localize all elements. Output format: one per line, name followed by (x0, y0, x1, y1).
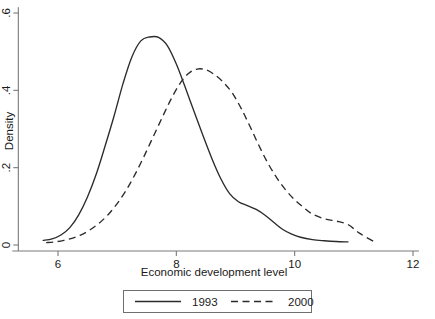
chart-legend: 1993 2000 (124, 291, 314, 313)
y-tick-label: .6 (0, 8, 12, 18)
x-axis-title: Economic development level (141, 266, 287, 278)
x-tick-label: 6 (55, 258, 61, 270)
series-line-1993 (43, 36, 348, 242)
legend-label-1993: 1993 (192, 296, 218, 308)
chart-canvas: 0.2.4.6 681012 Density Economic developm… (0, 0, 435, 319)
density-chart-figure: 0.2.4.6 681012 Density Economic developm… (0, 0, 435, 319)
y-axis-title: Density (3, 112, 15, 151)
x-tick-label: 10 (288, 258, 301, 270)
plot-curves (43, 36, 374, 242)
x-tick-label: 12 (407, 258, 420, 270)
y-tick-label: 0 (0, 242, 12, 248)
y-tick-label: .2 (0, 163, 12, 173)
legend-label-2000: 2000 (288, 296, 314, 308)
y-tick-label: .4 (0, 85, 12, 95)
